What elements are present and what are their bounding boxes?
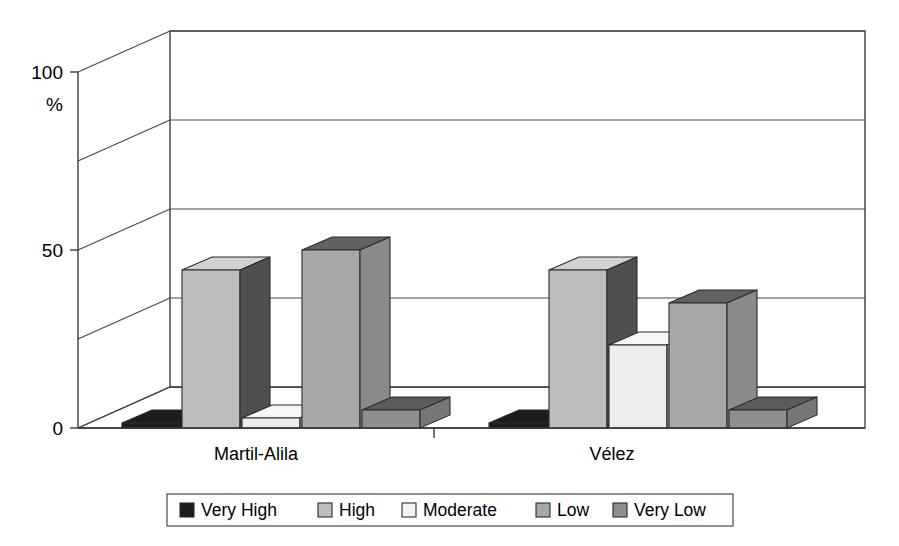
legend-swatch-very-low	[613, 503, 627, 517]
x-category-label-1: Martil-Alila	[214, 444, 299, 464]
legend-label-very-high: Very High	[201, 500, 277, 520]
bar-chart-3d: 100 % 50 0	[0, 0, 899, 546]
legend-swatch-low	[536, 503, 550, 517]
y-axis	[70, 72, 78, 428]
legend-label-low: Low	[557, 500, 589, 520]
bar-martil-high	[182, 257, 270, 428]
legend-label-moderate: Moderate	[423, 500, 497, 520]
legend-label-very-low: Very Low	[634, 500, 706, 520]
y-axis-unit-label: %	[46, 94, 63, 115]
x-category-label-2: Vélez	[589, 444, 634, 464]
bar-martil-low	[302, 237, 390, 428]
legend-label-high: High	[339, 500, 375, 520]
legend-swatch-moderate	[402, 503, 416, 517]
chart-container: 100 % 50 0	[0, 0, 899, 546]
y-tick-label-0: 0	[52, 418, 63, 439]
legend-swatch-high	[318, 503, 332, 517]
y-tick-label-50: 50	[42, 240, 63, 261]
x-axis	[78, 428, 865, 438]
y-tick-label-100: 100	[31, 62, 63, 83]
legend-swatch-very-high	[180, 503, 194, 517]
chart-legend: Very High High Moderate Low Very Low	[167, 494, 733, 526]
